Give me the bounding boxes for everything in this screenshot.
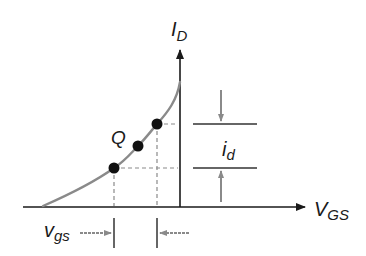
vgs-label: vgs [44,219,70,244]
point-lower [109,163,120,174]
y-axis-label: ID [171,18,188,44]
point-q [133,141,144,152]
id-label: id [222,138,235,163]
transfer-characteristic-diagram: ID VGS Q id vgs [0,0,366,256]
x-axis-label: VGS [314,198,349,223]
point-upper [152,119,163,130]
q-point-label: Q [111,127,126,148]
